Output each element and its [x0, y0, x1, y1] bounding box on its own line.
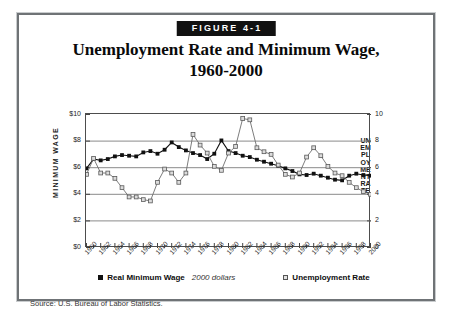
- y-axis-right-tick-label: 6: [375, 163, 395, 170]
- y-axis-right-tick-label: 10: [375, 110, 395, 117]
- figure-title-line2: 1960-2000: [19, 60, 433, 81]
- figure-title-line1: Unemployment Rate and Minimum Wage,: [72, 40, 379, 59]
- page-title: Unemployment Rate and Minimum Wage, 1960…: [19, 39, 433, 81]
- y-axis-left-tick-label: $4: [55, 189, 81, 196]
- legend-note-2000-dollars: 2000 dollars: [192, 273, 236, 282]
- legend-label-unemployment-rate: Unemployment Rate: [292, 273, 369, 282]
- y-axis-left-tick-label: $10: [55, 110, 81, 117]
- y-axis-left-tick-label: $8: [55, 136, 81, 143]
- figure-frame: FIGURE 4-1 Unemployment Rate and Minimum…: [17, 13, 435, 301]
- chart-container: MINIMUM WAGE UNEMPLOYMENT RATE $0$2$4$6$…: [29, 97, 425, 269]
- y-axis-left-tick-label: $0: [55, 243, 81, 250]
- open-square-icon: [283, 275, 288, 280]
- plot-area: [85, 113, 370, 247]
- legend-item-unemployment-rate: Unemployment Rate: [283, 273, 369, 282]
- chart-svg: [86, 114, 371, 248]
- source-note: Source: U.S. Bureau of Labor Statistics.: [30, 299, 163, 308]
- y-axis-right-tick-label: 8: [375, 136, 395, 143]
- y-axis-right-tick-label: 2: [375, 216, 395, 223]
- y-axis-left-tick-label: $6: [55, 163, 81, 170]
- legend-label-real-minimum-wage: Real Minimum Wage: [107, 273, 185, 282]
- legend-item-real-minimum-wage: Real Minimum Wage 2000 dollars: [98, 273, 235, 282]
- y-axis-left-tick-label: $2: [55, 216, 81, 223]
- figure-banner-label: FIGURE 4-1: [177, 21, 276, 36]
- y-axis-right-tick-label: 4: [375, 189, 395, 196]
- chart-legend: Real Minimum Wage 2000 dollars Unemploym…: [29, 273, 439, 282]
- filled-square-icon: [98, 275, 103, 280]
